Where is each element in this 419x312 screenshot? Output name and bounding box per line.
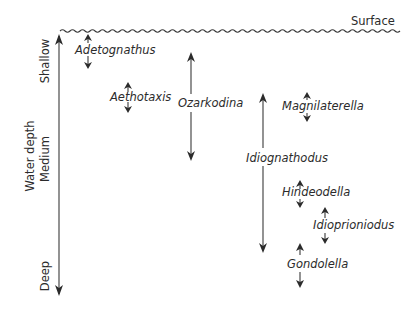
svg-text:Magnilaterella: Magnilaterella xyxy=(282,99,364,113)
svg-text:Idioprioniodus: Idioprioniodus xyxy=(313,218,394,232)
axis-title-water-depth: Water depth xyxy=(23,120,37,191)
taxon-magnilaterella: Magnilaterella xyxy=(282,92,364,122)
depth-axis-arrow xyxy=(55,34,63,296)
taxon-gondolella: Gondolella xyxy=(287,243,348,288)
taxon-ozarkodina: Ozarkodina xyxy=(178,52,243,161)
taxon-aethotaxis: Aethotaxis xyxy=(109,82,171,113)
conodont-depth-diagram: Surface Water depth Shallow Medium Deep … xyxy=(0,0,419,312)
axis-level-medium: Medium xyxy=(38,136,52,182)
taxon-adetognathus: Adetognathus xyxy=(74,34,156,69)
svg-text:Idiognathodus: Idiognathodus xyxy=(246,151,328,165)
surface-label: Surface xyxy=(351,14,395,28)
water-surface-wave xyxy=(60,30,400,33)
axis-level-shallow: Shallow xyxy=(38,39,52,83)
taxon-hindeodella: Hindeodella xyxy=(282,180,350,208)
svg-text:Aethotaxis: Aethotaxis xyxy=(109,90,171,104)
svg-text:Hindeodella: Hindeodella xyxy=(282,185,350,199)
svg-text:Ozarkodina: Ozarkodina xyxy=(178,96,243,110)
axis-level-deep: Deep xyxy=(38,261,52,291)
taxon-idioprioniodus: Idioprioniodus xyxy=(313,207,394,244)
svg-text:Adetognathus: Adetognathus xyxy=(74,43,156,57)
svg-text:Gondolella: Gondolella xyxy=(287,257,348,271)
